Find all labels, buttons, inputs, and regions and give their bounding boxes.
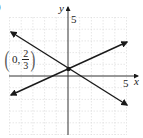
x-tick-label: 5 [123,78,129,89]
intersection-point [66,67,70,71]
x-axis-label: x [134,76,139,87]
part-marker: ) [0,1,1,12]
point-x-value: 0, [12,54,20,65]
y-axis-label: y [59,3,64,14]
fraction-numerator: 2 [22,48,29,60]
point-y-fraction: 2 3 [22,48,29,71]
open-paren: ( [5,47,10,71]
close-paren: ) [31,47,36,71]
intersection-label: ( 0, 2 3 ) [3,46,37,72]
fraction-denominator: 3 [23,60,28,71]
y-tick-label: 5 [71,14,77,25]
